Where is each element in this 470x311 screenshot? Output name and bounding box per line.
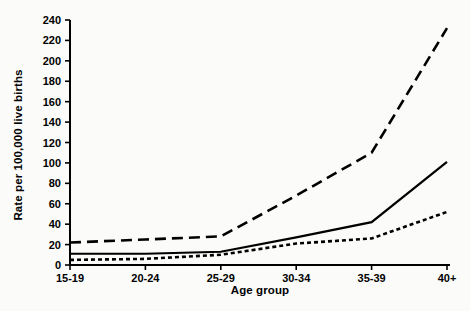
y-axis-tick-label: 80: [49, 177, 61, 189]
x-axis-title: Age group: [231, 284, 289, 296]
y-axis-tick-label: 180: [43, 75, 61, 87]
x-axis-tick-label: 35-39: [358, 272, 386, 284]
y-axis-tick-label: 0: [55, 259, 61, 271]
y-axis-tick-label: 100: [43, 157, 61, 169]
y-axis-title: Rate per 100,000 live births: [12, 69, 24, 220]
x-axis-tick-label: 30-34: [282, 272, 311, 284]
chart-container: 020406080100120140160180200220240 15-192…: [0, 0, 470, 311]
y-axis-tick-label: 140: [43, 116, 61, 128]
y-axis-tick-label: 220: [43, 34, 61, 46]
y-axis-tick-label: 20: [49, 239, 61, 251]
x-axis-tick-label: 20-24: [131, 272, 160, 284]
x-axis-tick-label: 40+: [438, 272, 457, 284]
line-chart: 020406080100120140160180200220240 15-192…: [0, 0, 470, 311]
x-axis-tick-label: 15-19: [56, 272, 84, 284]
x-axis-tick-label: 25-29: [207, 272, 235, 284]
y-axis-tick-label: 160: [43, 96, 61, 108]
y-axis-tick-label: 60: [49, 198, 61, 210]
y-axis-tick-label: 40: [49, 218, 61, 230]
y-axis-tick-label: 240: [43, 14, 61, 26]
y-axis-tick-label: 200: [43, 55, 61, 67]
y-axis-tick-label: 120: [43, 137, 61, 149]
